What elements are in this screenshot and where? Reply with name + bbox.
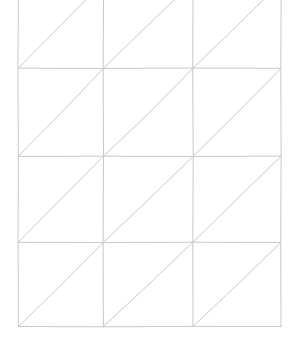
vertical-line-3 <box>281 0 282 327</box>
vertical-line-2 <box>193 0 194 326</box>
vertical-line-1 <box>103 0 104 327</box>
triangulated-grid-diagram <box>0 0 305 340</box>
diagram-background <box>0 0 305 340</box>
diagram-canvas <box>0 0 305 340</box>
